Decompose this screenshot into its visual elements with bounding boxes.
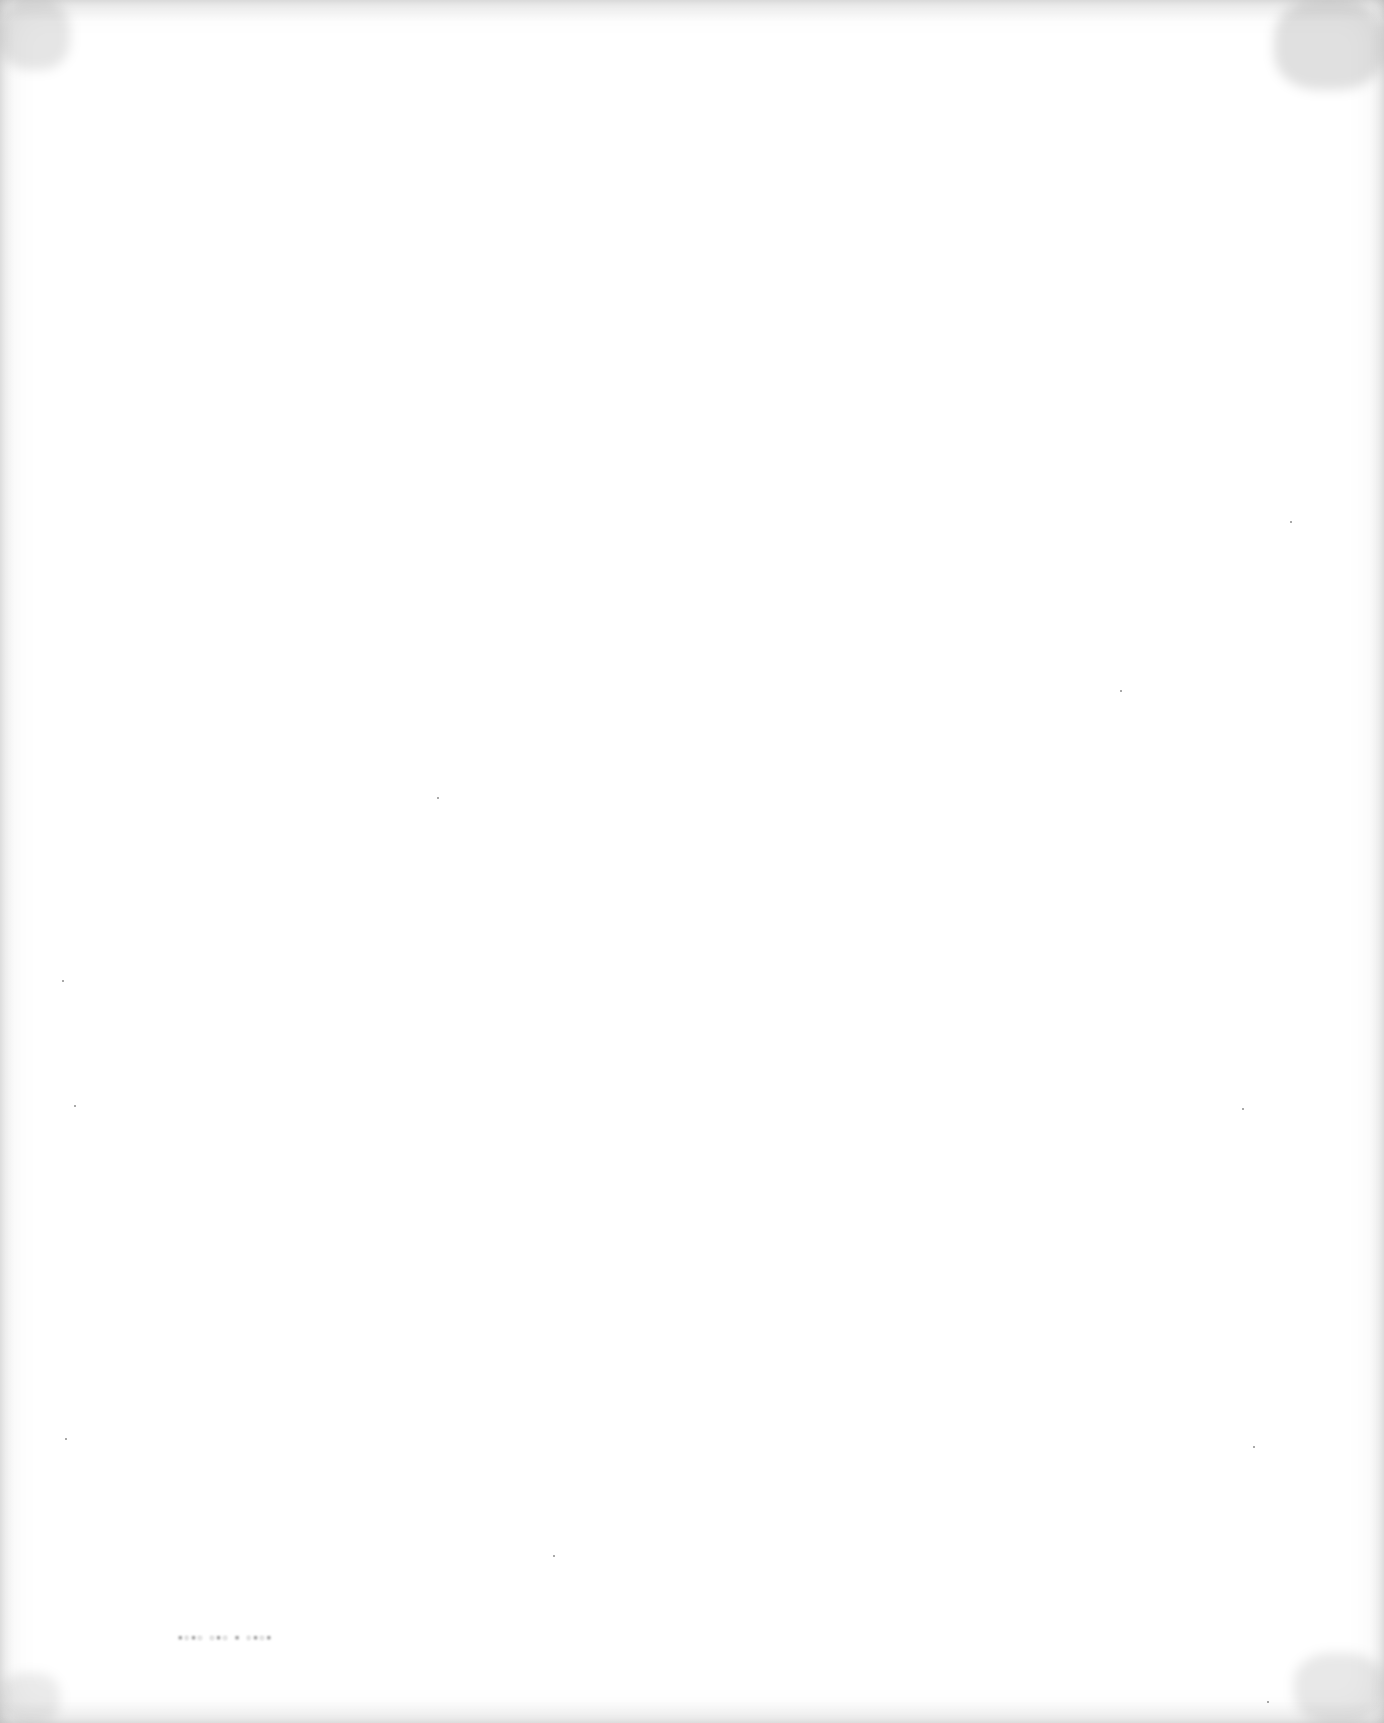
paper-speck: [1267, 1701, 1269, 1703]
paper-speck: [437, 797, 439, 799]
bleed-through-marks: ▪▫▪▫ ▫▪▫ ▪ ▫▪▫▪: [178, 1630, 273, 1646]
paper-speck: [553, 1555, 555, 1557]
corner-smudge-bottom-right: [1294, 1653, 1384, 1723]
scanned-page: ▪▫▪▫ ▫▪▫ ▪ ▫▪▫▪: [0, 0, 1384, 1723]
paper-speck: [65, 1438, 67, 1440]
corner-smudge-bottom-left: [0, 1673, 60, 1723]
bleed-through-glyphs: ▪▫▪▫ ▫▪▫ ▪ ▫▪▫▪: [178, 1630, 273, 1645]
paper-speck: [1253, 1446, 1255, 1448]
page-edge-left-shading: [0, 0, 14, 1723]
paper-speck: [1120, 690, 1122, 692]
paper-speck: [62, 980, 64, 982]
paper-speck: [1242, 1108, 1244, 1110]
paper-speck: [1290, 521, 1292, 523]
corner-smudge-top-right: [1274, 0, 1384, 90]
page-edge-right-shading: [1370, 0, 1384, 1723]
corner-smudge-top-left: [0, 0, 70, 70]
page-edge-top-shading: [0, 0, 1384, 22]
paper-speck: [74, 1105, 76, 1107]
page-edge-bottom-shading: [0, 1701, 1384, 1723]
